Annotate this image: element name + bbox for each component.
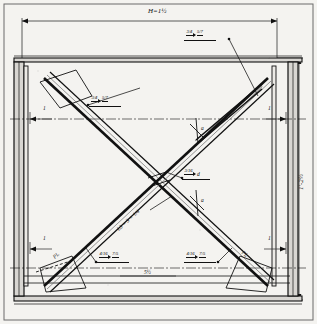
dimension-bottom-center-label: 5½: [144, 270, 151, 276]
dimension-left-lower-offset-label: 1: [43, 236, 46, 242]
dimension-right-offset-label: 1: [268, 106, 271, 112]
dimension-left-offset-label: 1: [43, 106, 46, 112]
dimension-left-offset: [30, 112, 52, 124]
weld-reference-line-upper-left: [89, 106, 121, 107]
brace-mark-right-label: a: [201, 198, 204, 204]
gusset-plate-bottom-right: [226, 256, 272, 292]
left-column: [14, 62, 28, 296]
bottom-beam: [14, 296, 302, 304]
weld-reference-line-center: [182, 179, 210, 180]
drawing-canvas: [0, 0, 317, 324]
brace-mark-left-label: a: [201, 126, 204, 132]
drawing-sheet: H=1½ 1'-2½ 5½ 1 1 1 1 3/4 5/7 3/4 5/7: [0, 0, 317, 324]
weld-reference-line-lower-left: [97, 262, 129, 263]
weld-reference-line-lower-right: [184, 262, 216, 263]
weld-reference-line-top-right: [184, 40, 216, 41]
right-column: [272, 62, 298, 296]
dimension-left-lower-offset: [30, 242, 52, 254]
top-beam: [14, 56, 302, 62]
weld-length-center: d: [197, 171, 200, 177]
dimension-top-overall: [22, 18, 277, 62]
dimension-top-overall-label: H=1½: [148, 8, 167, 15]
dimension-right-lower-offset-label: 1: [268, 236, 271, 242]
gusset-plate-bottom-left: [36, 256, 86, 292]
dimension-right-overall-label: 1'-2½: [298, 174, 305, 190]
